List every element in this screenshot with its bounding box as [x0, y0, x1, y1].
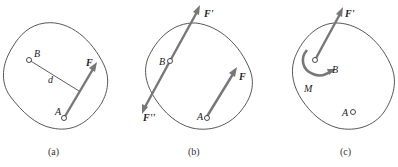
label-f-prime: F'	[344, 8, 355, 19]
force-f-prime-arrow	[315, 14, 340, 60]
point-b	[27, 58, 32, 63]
label-m: M	[303, 83, 313, 94]
couple-moment-m-arc	[303, 50, 331, 75]
force-f-arrowhead	[229, 67, 237, 77]
label-a: A	[54, 106, 62, 117]
panel-a: B A F d (a)	[3, 23, 107, 158]
label-f-double-prime: F''	[142, 112, 155, 123]
force-translation-diagram: B A F d (a) B A F F' F'' (b) B A M F' (c	[0, 0, 398, 167]
label-f: F	[85, 57, 93, 68]
label-d: d	[48, 74, 54, 85]
panel-b: B A F F' F'' (b)	[142, 5, 252, 158]
label-b: B	[34, 48, 40, 59]
moment-arm-line	[29, 60, 79, 91]
point-b	[168, 59, 173, 64]
force-f-prime-arrowhead	[193, 5, 200, 15]
point-a	[205, 116, 210, 121]
force-f-prime-arrow	[170, 12, 197, 61]
label-f-prime: F'	[203, 8, 214, 19]
force-f-arrow	[206, 74, 233, 118]
force-f-arrow	[64, 69, 93, 118]
label-a: A	[341, 107, 349, 118]
point-a	[62, 116, 67, 121]
point-b	[313, 58, 318, 63]
caption-a: (a)	[48, 146, 59, 158]
force-f-prime-arrowhead	[336, 7, 343, 17]
caption-b: (b)	[188, 146, 200, 158]
panel-c: B A M F' (c)	[292, 7, 394, 158]
label-b: B	[332, 64, 338, 75]
force-f-double-prime-arrow	[145, 61, 170, 107]
label-f: F	[238, 71, 246, 82]
point-a	[351, 110, 356, 115]
caption-c: (c)	[340, 146, 351, 158]
label-b: B	[159, 56, 165, 67]
label-a: A	[196, 111, 204, 122]
